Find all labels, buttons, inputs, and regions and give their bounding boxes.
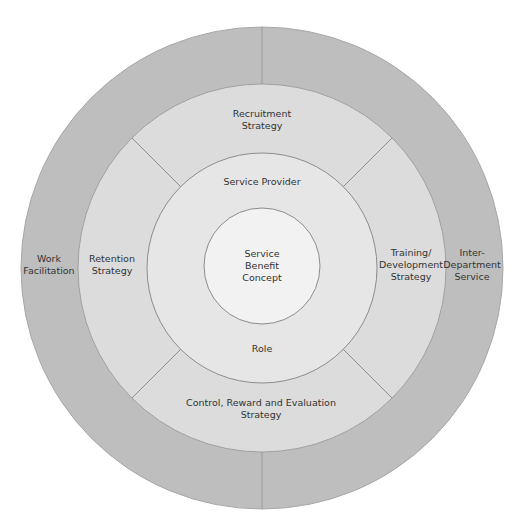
inter-department-label: Inter- Department Service: [443, 247, 501, 283]
recruitment-strategy-label: Recruitment Strategy: [233, 108, 291, 132]
training-strategy-label: Training/ Development Strategy: [379, 247, 443, 283]
retention-strategy-label: Retention Strategy: [89, 253, 135, 277]
role-top-label: Service Provider: [223, 176, 300, 188]
role-bottom-label: Role: [252, 343, 272, 355]
work-facilitation-label: Work Facilitation: [23, 253, 74, 277]
control-strategy-label: Control, Reward and Evaluation Strategy: [186, 397, 336, 421]
core-label: Service Benefit Concept: [242, 248, 281, 284]
